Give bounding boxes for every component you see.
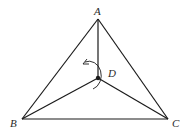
label-c: C	[172, 117, 180, 129]
label-a: A	[93, 5, 101, 17]
segment-cd	[98, 78, 168, 119]
segment-ab	[22, 19, 98, 119]
triangle-diagram: A B C D	[0, 0, 194, 134]
rotation-arc	[85, 61, 101, 89]
label-d: D	[107, 67, 116, 79]
point-d	[96, 76, 100, 80]
segment-bd	[22, 78, 98, 119]
label-b: B	[10, 117, 17, 129]
